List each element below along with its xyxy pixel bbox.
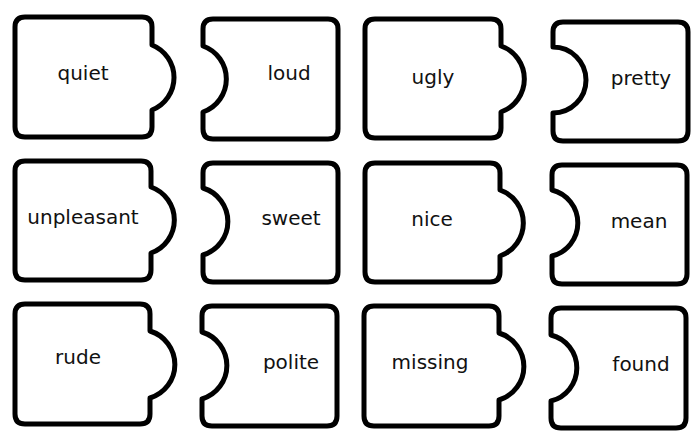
- word-mean: mean: [611, 211, 668, 231]
- word-rude: rude: [55, 347, 101, 367]
- word-pretty: pretty: [611, 68, 671, 88]
- word-sweet: sweet: [261, 208, 320, 228]
- word-polite: polite: [263, 352, 319, 372]
- word-ugly: ugly: [412, 67, 455, 87]
- word-unpleasant: unpleasant: [27, 207, 138, 227]
- word-missing: missing: [392, 352, 469, 372]
- word-nice: nice: [411, 209, 453, 229]
- word-found: found: [612, 354, 669, 374]
- word-loud: loud: [267, 63, 310, 83]
- word-quiet: quiet: [57, 63, 108, 83]
